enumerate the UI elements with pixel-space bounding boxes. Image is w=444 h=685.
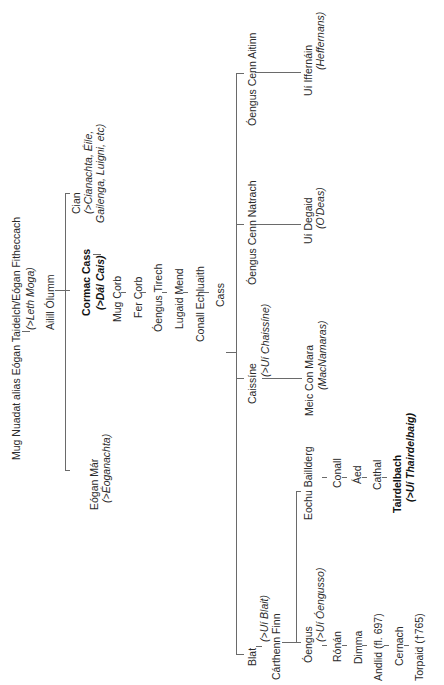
cormac-line-4: Lugaid Mend (173, 268, 185, 329)
ailill-name: Ailill Ólumm (44, 275, 56, 330)
cormac-tick (65, 290, 70, 291)
blat-cairthenn-tick (256, 646, 262, 647)
oengus-note: (>Uí Óengusso) (314, 568, 326, 642)
caissene-tick (236, 378, 244, 379)
eogan-tick (65, 470, 70, 471)
root-note: (>Leth Moga) (24, 267, 36, 330)
cormac-name: Cormac Cass (80, 249, 92, 316)
oengus-tick (296, 642, 301, 643)
caissene-desc-h (262, 378, 302, 379)
ui-degaid-note: (O'Deas) (314, 187, 326, 229)
cian-note-1: (>Cianachta, Éile, (82, 131, 94, 214)
tairdelbach-note: (>Uí Thairdelbaig) (404, 413, 416, 502)
cormac-line-2: Fer Corb (132, 277, 144, 318)
cenn-aitinn-tick (236, 73, 244, 74)
cairthenn-children-bar (296, 491, 297, 642)
cormac-line-1: Mug Corb (111, 276, 123, 322)
cairthenn-connector (282, 642, 296, 643)
blat-note: (>Uí Blait) (258, 595, 270, 642)
oengus-line-5: Torpaid (†765) (413, 613, 425, 681)
oengus-cenn-natrach: Óengus Cenn Natrach (246, 181, 258, 285)
root-ailill-tick (22, 331, 30, 332)
eochu-line-2: Áed (351, 465, 363, 484)
aitinn-desc-h (255, 72, 301, 73)
cass-connector (226, 352, 236, 353)
blat-tick (236, 654, 244, 655)
eogan-note: (>Éoganachta) (100, 434, 112, 503)
cian-note-2: Gailenga, Luigni, etc) (94, 124, 106, 223)
meic-con-mara: Meic Con Mara (303, 345, 315, 416)
cairthenn-finn: Cárthenn Finn (270, 613, 282, 680)
oengus-line-4: Cernach (393, 626, 405, 666)
oengus-cenn-aitinn: Óengus Cenn Aitinn (246, 33, 258, 126)
ui-iffernain: Uí Iffernáin (302, 45, 314, 96)
eochu-tick (296, 491, 301, 492)
ailill-connector (55, 290, 65, 291)
cass-children-bar (236, 73, 237, 655)
eogan-name: Eógan Már (88, 459, 100, 510)
eochu-line-1: Conall (331, 458, 343, 488)
blat-name: Blat (246, 648, 258, 666)
oengus-line-2: Dimma (352, 631, 364, 664)
cian-name: Cian (70, 192, 82, 214)
caissene-name: Caissíne (246, 363, 258, 404)
caissene-note: (>Uí Chaissíne) (259, 304, 271, 377)
eochu-baillderg: Eochu Baillderg (302, 446, 314, 520)
eochu-line-3: Cathal (371, 460, 383, 490)
ui-degaid: Uí Degaid (302, 197, 314, 244)
cormac-note: (>Dál Cais) (94, 255, 106, 310)
ailill-children-bar (65, 193, 66, 471)
cormac-line-3: Óengus Tirech (152, 264, 164, 332)
cormac-line-5: Conall Echluaith (194, 266, 206, 342)
natrach-desc-h (255, 224, 301, 225)
oengus-line-3: Andlid (fl. 697) (372, 613, 384, 681)
cenn-natrach-tick (236, 224, 244, 225)
oengus-name: Óengus (302, 626, 314, 663)
tairdelbach: Tairdelbach (391, 455, 403, 513)
oengus-tick-4 (384, 645, 389, 646)
oengus-tick-1 (322, 645, 327, 646)
root-name: Mug Nuadat alias Eógan Taidelch/Eógan Fi… (10, 217, 22, 460)
ui-iffernain-note: (Heffernans) (314, 12, 326, 70)
eochu-tick-1 (322, 477, 327, 478)
cormac-line-6: Cass (214, 283, 226, 307)
meic-con-mara-note: (MacNamaras) (316, 321, 328, 390)
oengus-line-1: Rónán (331, 631, 343, 662)
